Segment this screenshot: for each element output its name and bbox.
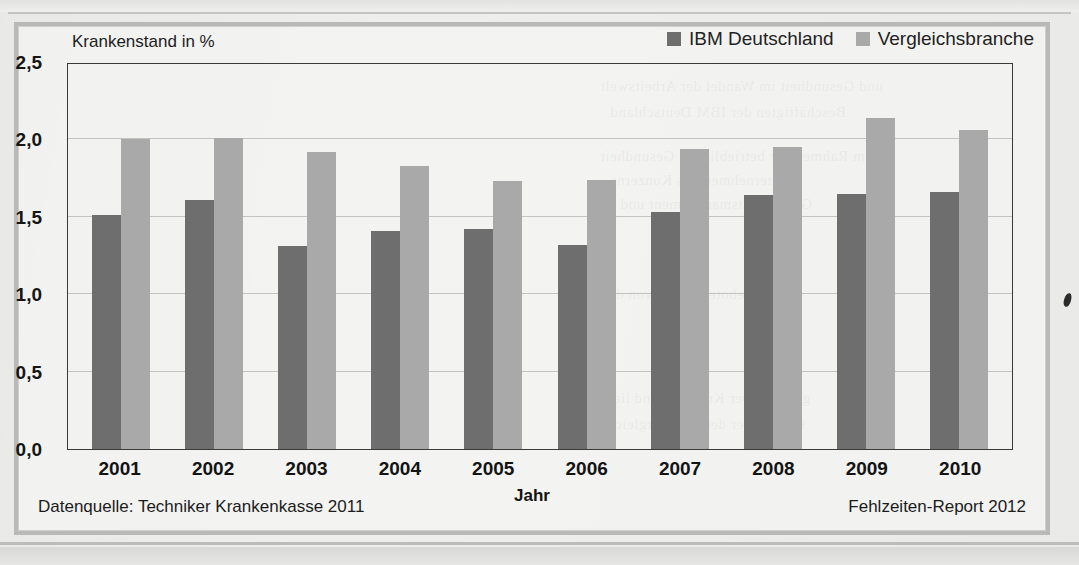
- bar: [278, 246, 307, 449]
- plot-area: [67, 63, 1013, 450]
- bar-group: [930, 64, 988, 449]
- page-bottom-rule: [0, 542, 1079, 545]
- figure-frame: IBM Deutschland Vergleichsbranche Kranke…: [14, 22, 1050, 535]
- y-axis-tick-label: 2,5: [0, 52, 42, 74]
- bar: [744, 195, 773, 449]
- x-axis-tick-label: 2002: [184, 458, 242, 480]
- x-axis-tick-label: 2001: [91, 458, 149, 480]
- bar: [92, 215, 121, 449]
- bar: [959, 130, 988, 449]
- plot-wrapper: 2,52,01,51,00,50,0 200120022003200420052…: [18, 26, 1046, 531]
- bar: [493, 181, 522, 449]
- page-bottom-edge: [0, 547, 1079, 565]
- x-axis-tick-label: 2009: [838, 458, 896, 480]
- figure-footer: Datenquelle: Techniker Krankenkasse 2011…: [38, 497, 1026, 517]
- x-axis-tick-label: 2003: [277, 458, 335, 480]
- x-axis-tick-label: 2006: [558, 458, 616, 480]
- bar: [307, 152, 336, 449]
- bar-group: [651, 64, 709, 449]
- bar: [185, 200, 214, 449]
- bar-group: [744, 64, 802, 449]
- bar-group: [185, 64, 243, 449]
- y-axis-tick-label: 0,5: [0, 362, 42, 384]
- x-axis-tick-label: 2008: [744, 458, 802, 480]
- bar: [371, 231, 400, 449]
- bar: [680, 149, 709, 449]
- bar-group: [371, 64, 429, 449]
- bar-group: [837, 64, 895, 449]
- page-top-edge: [0, 0, 1079, 12]
- bar: [930, 192, 959, 449]
- bar: [866, 118, 895, 449]
- y-axis-tick-label: 1,0: [0, 284, 42, 306]
- y-axis-tick-label: 0,0: [0, 439, 42, 461]
- y-axis-tick-label: 1,5: [0, 207, 42, 229]
- bar-group: [278, 64, 336, 449]
- y-axis-tick-label: 2,0: [0, 129, 42, 151]
- bar-groups: [68, 64, 1012, 449]
- x-axis-tick-labels: 2001200220032004200520062007200820092010: [67, 458, 1013, 480]
- x-axis-tick-label: 2010: [931, 458, 989, 480]
- report-note: Fehlzeiten-Report 2012: [848, 497, 1026, 517]
- data-source-note: Datenquelle: Techniker Krankenkasse 2011: [38, 497, 364, 517]
- x-axis-tick-label: 2005: [464, 458, 522, 480]
- bar: [214, 138, 243, 449]
- x-axis-tick-label: 2007: [651, 458, 709, 480]
- page-top-rule: [8, 12, 1071, 14]
- scan-artifact-mark: [1063, 292, 1073, 307]
- bar: [587, 180, 616, 449]
- bar-group: [558, 64, 616, 449]
- bar: [464, 229, 493, 449]
- bar-group: [92, 64, 150, 449]
- bar: [837, 194, 866, 449]
- bar: [773, 147, 802, 449]
- scanned-page: und Gesundheit im Wandel der Arbeitswelt…: [0, 0, 1079, 565]
- bar: [651, 212, 680, 449]
- bar: [400, 166, 429, 449]
- bar: [558, 245, 587, 449]
- x-axis-tick-label: 2004: [371, 458, 429, 480]
- bar-group: [464, 64, 522, 449]
- bar: [121, 139, 150, 449]
